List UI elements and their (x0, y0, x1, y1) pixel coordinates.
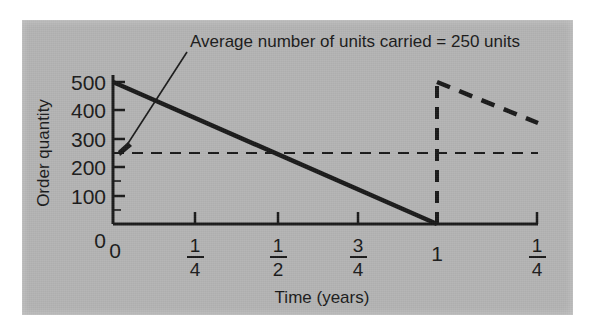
chart-panel: 500 400 300 200 100 0 Order quantity 0 (22, 20, 573, 315)
y-tick-labels: 500 400 300 200 100 0 (71, 71, 106, 252)
x-tick-label-quarter-denominator: 4 (190, 259, 201, 280)
annotation-arrow-shaft (125, 52, 187, 148)
inventory-cycle-chart: 500 400 300 200 100 0 Order quantity 0 (22, 20, 573, 315)
y-tick-label-300: 300 (71, 128, 106, 151)
y-axis-title: Order quantity (34, 99, 53, 207)
x-axis-title: Time (years) (275, 288, 370, 307)
figure-root: 500 400 300 200 100 0 Order quantity 0 (0, 0, 591, 334)
axes-group (113, 75, 538, 224)
annotation-arrow-head (118, 142, 132, 156)
x-tick-label-half: 1 2 (270, 235, 287, 280)
y-tick-marks (113, 82, 125, 196)
x-tick-label-quarter: 1 4 (187, 235, 204, 280)
x-tick-label-next-quarter: 1 4 (529, 235, 546, 280)
y-tick-label-400: 400 (71, 99, 106, 122)
annotation-arrow (118, 52, 187, 156)
x-tick-label-threequarter-denominator: 4 (353, 259, 364, 280)
x-tick-label-one: 1 (431, 242, 443, 265)
x-tick-labels: 0 1 4 1 2 3 4 1 1 (109, 235, 546, 280)
x-tick-label-half-numerator: 1 (273, 235, 284, 256)
x-tick-label-half-denominator: 2 (273, 259, 284, 280)
x-tick-label-0: 0 (109, 239, 121, 262)
depletion-line-cycle-2 (437, 82, 538, 123)
x-tick-marks (195, 212, 537, 224)
x-tick-label-threequarter-numerator: 3 (353, 235, 364, 256)
y-tick-label-0: 0 (94, 229, 106, 252)
x-tick-label-next-quarter-numerator: 1 (532, 235, 543, 256)
average-units-annotation: Average number of units carried = 250 un… (190, 32, 520, 51)
y-tick-label-500: 500 (71, 71, 106, 94)
x-tick-label-threequarter: 3 4 (350, 235, 367, 280)
y-tick-label-100: 100 (71, 185, 106, 208)
x-tick-label-quarter-numerator: 1 (190, 235, 201, 256)
y-tick-label-200: 200 (71, 156, 106, 179)
x-tick-label-next-quarter-denominator: 4 (532, 259, 543, 280)
